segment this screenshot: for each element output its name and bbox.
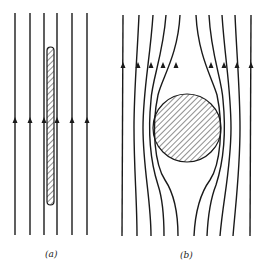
- cylinder: [153, 94, 221, 162]
- panel-b-arrows: [121, 62, 254, 68]
- panel-a: [15, 13, 87, 235]
- label-b: (b): [180, 250, 193, 260]
- label-a: (a): [45, 249, 58, 259]
- field-lines-diagram: (a) (b): [0, 0, 266, 268]
- rod: [47, 47, 54, 205]
- panel-b: [122, 15, 251, 236]
